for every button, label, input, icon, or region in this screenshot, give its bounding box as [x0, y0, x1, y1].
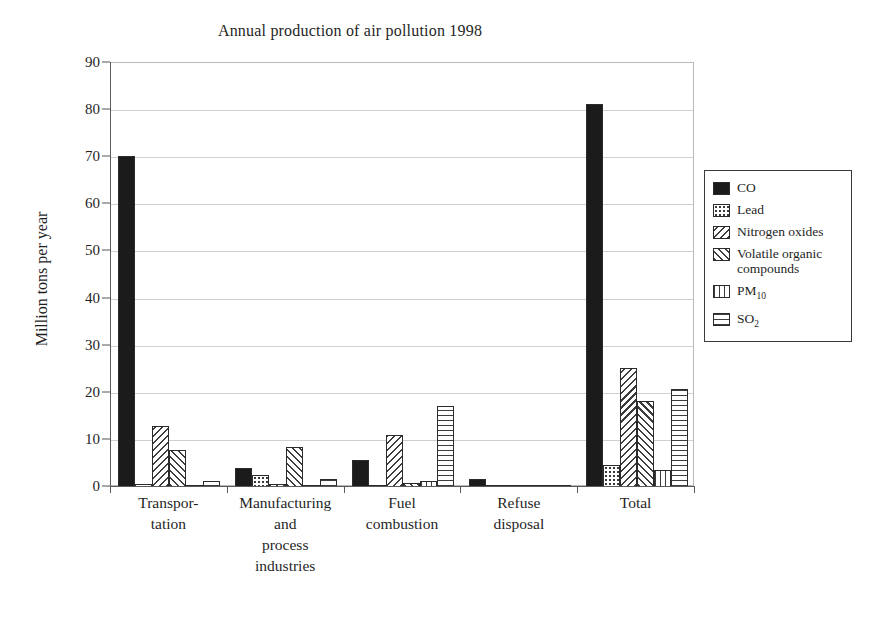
- legend-item-label: PM10: [737, 283, 766, 304]
- bar-group: [461, 63, 578, 487]
- y-tick-mark: [102, 344, 110, 345]
- bar-groups: [111, 63, 695, 487]
- bar-pm10[interactable]: [654, 470, 671, 487]
- bar-group-bars: [111, 63, 228, 487]
- y-axis-ticks: 0102030405060708090: [62, 62, 110, 486]
- bar-group-bars: [345, 63, 462, 487]
- y-tick-label: 80: [60, 101, 100, 118]
- bar-nitrogen-oxides[interactable]: [386, 435, 403, 487]
- legend-item[interactable]: Lead: [713, 202, 843, 217]
- y-tick-label: 40: [60, 289, 100, 306]
- bar-volatile-organic-compounds[interactable]: [637, 401, 654, 487]
- legend-item[interactable]: SO2: [713, 311, 843, 332]
- legend-swatch-icon: [713, 204, 730, 217]
- legend-item[interactable]: PM10: [713, 283, 843, 304]
- bar-group-bars: [578, 63, 695, 487]
- bar-group: [111, 63, 228, 487]
- y-tick-mark: [102, 297, 110, 298]
- plot-area: [110, 62, 694, 486]
- y-axis-line: [110, 62, 111, 487]
- bar-co[interactable]: [352, 460, 369, 487]
- x-axis-labels: Transpor-tationManufacturingandprocessin…: [110, 492, 694, 612]
- bar-nitrogen-oxides[interactable]: [620, 368, 637, 487]
- bar-group: [228, 63, 345, 487]
- chart-legend: COLeadNitrogen oxidesVolatile organic co…: [704, 170, 852, 342]
- y-tick-label: 50: [60, 242, 100, 259]
- y-tick-mark: [102, 203, 110, 204]
- bar-so2[interactable]: [671, 389, 688, 487]
- legend-item-label: Volatile organic compounds: [737, 246, 843, 276]
- legend-item[interactable]: Nitrogen oxides: [713, 224, 843, 239]
- legend-swatch-icon: [713, 285, 730, 298]
- y-tick-mark: [102, 438, 110, 439]
- y-tick-mark: [102, 109, 110, 110]
- bar-co[interactable]: [235, 468, 252, 487]
- legend-item-label: Lead: [737, 202, 764, 217]
- x-axis-line: [110, 486, 695, 487]
- legend-item-label: CO: [737, 180, 756, 195]
- y-tick-mark: [102, 486, 110, 487]
- bar-group: [578, 63, 695, 487]
- y-tick-label: 30: [60, 336, 100, 353]
- y-tick-label: 20: [60, 383, 100, 400]
- legend-item-label: SO2: [737, 311, 759, 332]
- bar-volatile-organic-compounds[interactable]: [286, 447, 303, 487]
- y-tick-mark: [102, 391, 110, 392]
- y-tick-label: 10: [60, 430, 100, 447]
- y-tick-label: 0: [60, 478, 100, 495]
- bar-so2[interactable]: [437, 406, 454, 488]
- bar-group-bars: [461, 63, 578, 487]
- bar-group-bars: [228, 63, 345, 487]
- y-tick-label: 70: [60, 148, 100, 165]
- x-axis-category-label: Total: [565, 492, 706, 513]
- bar-group: [345, 63, 462, 487]
- chart-title: Annual production of air pollution 1998: [0, 22, 700, 40]
- y-tick-label: 60: [60, 195, 100, 212]
- bar-lead[interactable]: [603, 465, 620, 487]
- legend-swatch-icon: [713, 313, 730, 326]
- chart-figure: Annual production of air pollution 1998 …: [0, 0, 879, 620]
- legend-item-label: Nitrogen oxides: [737, 224, 824, 239]
- legend-swatch-icon: [713, 248, 730, 261]
- bar-volatile-organic-compounds[interactable]: [169, 450, 186, 487]
- legend-item[interactable]: Volatile organic compounds: [713, 246, 843, 276]
- y-axis-label: Million tons per year: [33, 69, 51, 489]
- legend-swatch-icon: [713, 182, 730, 195]
- y-tick-label: 90: [60, 54, 100, 71]
- bar-nitrogen-oxides[interactable]: [152, 426, 169, 487]
- y-tick-mark: [102, 156, 110, 157]
- legend-swatch-icon: [713, 226, 730, 239]
- bar-co[interactable]: [586, 104, 603, 487]
- bar-co[interactable]: [118, 156, 135, 487]
- y-tick-mark: [102, 250, 110, 251]
- y-tick-mark: [102, 62, 110, 63]
- legend-item[interactable]: CO: [713, 180, 843, 195]
